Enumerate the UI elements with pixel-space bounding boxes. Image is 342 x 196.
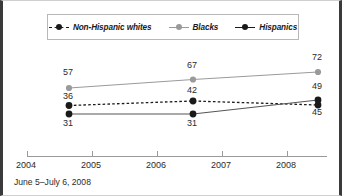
legend-marker-gray-line-icon bbox=[169, 23, 189, 32]
data-label-hispanics-2006: 31 bbox=[187, 118, 197, 128]
chart-legend: Non-Hispanic whites Blacks Hispanics bbox=[47, 14, 299, 40]
legend-label-non-hispanic-whites: Non-Hispanic whites bbox=[73, 23, 152, 32]
series-point-hispanics bbox=[66, 111, 73, 118]
series-point-hispanics bbox=[190, 111, 197, 118]
data-label-hispanics-2004: 31 bbox=[63, 118, 73, 128]
legend-item-non-hispanic-whites: Non-Hispanic whites bbox=[49, 23, 152, 32]
series-point-non-hispanic-whites bbox=[66, 102, 73, 109]
series-point-blacks bbox=[190, 76, 196, 82]
data-label-non-hispanic-whites-2004: 36 bbox=[63, 91, 73, 101]
x-axis-label-2008: 2008 bbox=[276, 160, 296, 170]
x-axis-label-2005: 2005 bbox=[81, 160, 101, 170]
data-label-non-hispanic-whites-2006: 42 bbox=[187, 85, 197, 95]
data-label-hispanics-2008: 49 bbox=[312, 81, 322, 91]
data-label-blacks-2006: 67 bbox=[187, 60, 197, 70]
data-label-non-hispanic-whites-2008: 45 bbox=[312, 107, 322, 117]
x-axis-label-2004: 2004 bbox=[16, 160, 36, 170]
legend-marker-dashed-line-icon bbox=[49, 23, 69, 32]
x-axis-label-2006: 2006 bbox=[146, 160, 166, 170]
chart-figure: Non-Hispanic whites Blacks Hispanics 57 … bbox=[0, 0, 342, 196]
legend-item-hispanics: Hispanics bbox=[235, 23, 297, 32]
chart-footnote: June 5–July 6, 2008 bbox=[14, 177, 91, 187]
legend-item-blacks: Blacks bbox=[169, 23, 219, 32]
series-point-hispanics bbox=[315, 97, 322, 104]
legend-label-blacks: Blacks bbox=[193, 23, 219, 32]
legend-marker-black-line-icon bbox=[235, 23, 255, 32]
legend-label-hispanics: Hispanics bbox=[259, 23, 297, 32]
data-label-blacks-2004: 57 bbox=[63, 67, 73, 77]
x-axis-label-2007: 2007 bbox=[211, 160, 231, 170]
series-point-non-hispanic-whites bbox=[190, 98, 197, 105]
data-label-blacks-2008: 72 bbox=[312, 52, 322, 62]
series-point-blacks bbox=[315, 69, 321, 75]
